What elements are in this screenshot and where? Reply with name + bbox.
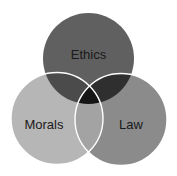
label-morals: Morals bbox=[24, 117, 64, 132]
label-law: Law bbox=[119, 117, 143, 132]
label-ethics: Ethics bbox=[71, 47, 107, 62]
venn-diagram: Ethics Morals Law bbox=[0, 0, 177, 176]
